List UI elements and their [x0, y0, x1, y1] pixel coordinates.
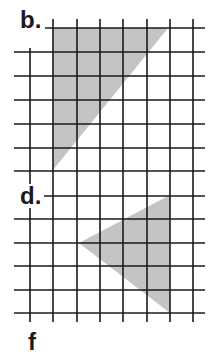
shaded-triangle-1 [79, 195, 170, 313]
panel-label-f-partial: f [28, 330, 38, 354]
panel-label-d: d. [20, 184, 43, 208]
panel-label-b: b. [20, 8, 43, 32]
